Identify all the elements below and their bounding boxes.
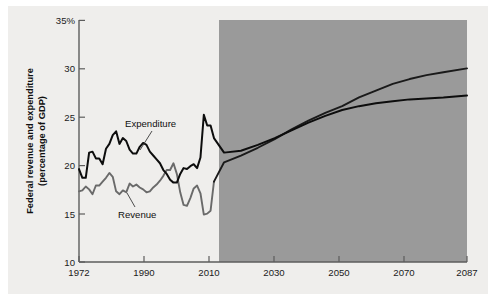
y-ticks	[79, 20, 85, 262]
x-tick-labels: 1972 1990 2010 2030 2050 2070 2087	[68, 267, 477, 278]
x-tick-label-1990: 1990	[133, 267, 154, 278]
y-tick-label-35: 35%	[56, 15, 76, 26]
x-tick-label-2030: 2030	[263, 267, 284, 278]
expenditure-label: Expenditure	[125, 118, 176, 129]
y-tick-label-20: 20	[64, 160, 75, 171]
x-tick-label-1972: 1972	[68, 267, 89, 278]
y-axis-title-line1: Federal revenue and expenditure	[25, 68, 35, 214]
projection-band	[219, 20, 467, 262]
chart-figure: 35% 30 25 20 15 10 1972 1990 2010 2030 2…	[0, 0, 496, 301]
x-tick-label-2050: 2050	[328, 267, 349, 278]
y-tick-labels: 35% 30 25 20 15 10	[56, 15, 76, 268]
revenue-line-historical	[79, 163, 214, 214]
y-axis-title: Federal revenue and expenditure (percent…	[25, 68, 47, 214]
y-tick-label-30: 30	[64, 63, 75, 74]
x-tick-label-2087: 2087	[456, 267, 477, 278]
line-chart: 35% 30 25 20 15 10 1972 1990 2010 2030 2…	[0, 0, 496, 301]
expenditure-leader-line	[140, 131, 152, 150]
x-tick-label-2070: 2070	[393, 267, 414, 278]
revenue-label: Revenue	[118, 209, 156, 220]
y-axis-title-line2: (percentage of GDP)	[37, 96, 47, 186]
y-tick-label-10: 10	[64, 257, 75, 268]
y-tick-label-15: 15	[64, 209, 75, 220]
x-tick-label-2010: 2010	[198, 267, 219, 278]
revenue-leader-line	[127, 193, 135, 207]
y-tick-label-25: 25	[64, 112, 75, 123]
